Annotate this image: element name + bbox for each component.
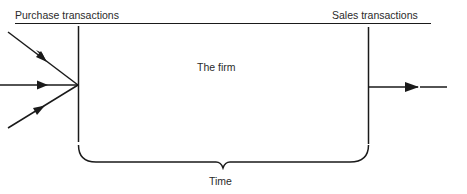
- purchase-arrows: [0, 32, 78, 128]
- time-brace-icon: [79, 145, 369, 168]
- diagram-graphics: [0, 0, 467, 194]
- sales-transactions-label: Sales transactions: [332, 10, 418, 21]
- firm-label: The firm: [197, 62, 236, 73]
- sales-arrowhead-icon: [405, 82, 419, 92]
- firm-transactions-diagram: Purchase transactions Sales transactions…: [0, 0, 467, 194]
- time-label: Time: [209, 176, 232, 187]
- sales-arrow: [368, 82, 447, 92]
- purchase-transactions-label: Purchase transactions: [15, 10, 119, 21]
